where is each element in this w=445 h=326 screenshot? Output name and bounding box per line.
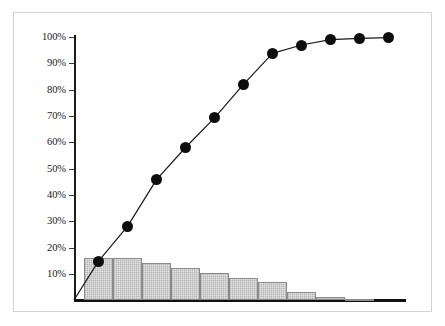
cumulative-marker-1: [93, 256, 104, 267]
bar-9: [316, 297, 345, 300]
y-tick-label-20: 20%: [26, 243, 66, 254]
bar-7: [258, 282, 287, 300]
bar-10: [345, 299, 374, 301]
plot-area: 100% 90% 80% 70% 60% 50% 40% 30% 20% 10%: [0, 0, 445, 326]
cumulative-marker-3: [151, 174, 162, 185]
bar-8: [287, 292, 316, 300]
cumulative-marker-4: [180, 142, 191, 153]
cumulative-marker-10: [354, 33, 365, 44]
bar-2: [113, 258, 142, 300]
y-tick-label-100: 100%: [26, 32, 66, 43]
y-tick-label-90: 90%: [26, 58, 66, 69]
pareto-chart-figure: 100% 90% 80% 70% 60% 50% 40% 30% 20% 10%: [0, 0, 445, 326]
y-tick-label-40: 40%: [26, 190, 66, 201]
y-tick-label-10: 10%: [26, 269, 66, 280]
cumulative-marker-5: [209, 112, 220, 123]
bar-4: [171, 268, 200, 300]
cumulative-marker-7: [267, 48, 278, 59]
y-tick-label-60: 60%: [26, 137, 66, 148]
bar-3: [142, 263, 171, 300]
bar-6: [229, 278, 258, 300]
cumulative-marker-8: [296, 40, 307, 51]
y-tick-label-80: 80%: [26, 85, 66, 96]
cumulative-marker-2: [122, 221, 133, 232]
y-axis-line: [74, 35, 76, 301]
y-tick-label-50: 50%: [26, 164, 66, 175]
y-tick-label-30: 30%: [26, 216, 66, 227]
bar-5: [200, 273, 229, 300]
cumulative-marker-11: [383, 32, 394, 43]
y-tick-label-70: 70%: [26, 111, 66, 122]
cumulative-marker-9: [325, 34, 336, 45]
cumulative-marker-6: [238, 79, 249, 90]
